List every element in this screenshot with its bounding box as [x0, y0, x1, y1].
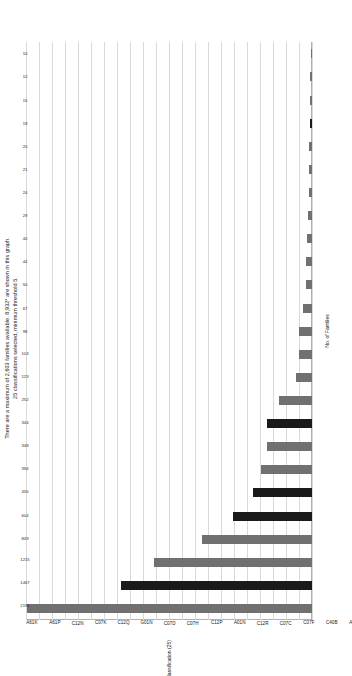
category-label-c07k: C07K: [95, 621, 107, 626]
category-label-c07d: C07D: [164, 621, 176, 626]
bar-a61p[interactable]: 1467: [121, 581, 312, 590]
category-label-g01n: G01N: [141, 621, 153, 626]
bar-value-label: 252: [22, 396, 29, 401]
bar-slot[interactable]: 604: [26, 504, 312, 527]
bar-slot[interactable]: 21: [26, 158, 312, 181]
bar-c07d[interactable]: 394: [261, 465, 312, 474]
bar-value-label: 67: [23, 305, 28, 310]
bar-value-label: 44: [23, 259, 28, 264]
bar-c07k[interactable]: 849: [202, 535, 312, 544]
bar-value-label: 29: [23, 213, 28, 218]
bar-c12q[interactable]: 604: [233, 512, 312, 521]
bar-value-label: 2191: [20, 603, 29, 608]
bar-c12n[interactable]: 1215: [154, 558, 312, 567]
bar-value-label: 849: [22, 535, 29, 540]
bar-slot[interactable]: 344: [26, 412, 312, 435]
bar-slot[interactable]: 12: [26, 65, 312, 88]
category-label-a61p: A61P: [49, 621, 60, 626]
bar-value-label: 19: [23, 120, 28, 125]
bar-slot[interactable]: 348: [26, 435, 312, 458]
bar-slot[interactable]: 29: [26, 204, 312, 227]
bar-value-label: 123: [22, 373, 29, 378]
chart-title-line-1: There are a maximum of 2,603 families av…: [4, 0, 12, 676]
plot-area: 2191146712158496044553943483442521231039…: [26, 42, 312, 620]
category-label-c07h: C07H: [187, 621, 199, 626]
category-label-a61k: A61K: [26, 621, 37, 626]
bar-a61k[interactable]: 2191: [27, 604, 312, 613]
category-label-c12n: C12N: [72, 621, 84, 626]
chart-canvas: There are a maximum of 2,603 families av…: [0, 0, 352, 676]
bar-value-label: 103: [22, 350, 29, 355]
category-axis-labels: A61KA61PC12NC07KC12QG01NC07DC07HC12PA01N…: [26, 620, 312, 676]
bar-c07f[interactable]: 98: [299, 327, 312, 336]
bar-value-label: 40: [23, 236, 28, 241]
bar-slot[interactable]: 15: [26, 88, 312, 111]
category-label-c12p: C12P: [211, 621, 223, 626]
category-label-a01n: A01N: [234, 621, 246, 626]
bar-value-label: 10: [23, 51, 28, 56]
bar-value-label: 394: [22, 466, 29, 471]
bar-slot[interactable]: 40: [26, 227, 312, 250]
bar-g01n[interactable]: 455: [253, 488, 312, 497]
bar-slot[interactable]: 455: [26, 481, 312, 504]
bar-slot[interactable]: 123: [26, 366, 312, 389]
bar-value-label: 24: [23, 190, 28, 195]
bar-value-label: 344: [22, 420, 29, 425]
bar-slot[interactable]: 394: [26, 458, 312, 481]
bar-c07h[interactable]: 348: [267, 442, 312, 451]
bar-slot[interactable]: 19: [26, 112, 312, 135]
bar-value-label: 20: [23, 143, 28, 148]
bar-slot[interactable]: 20: [26, 135, 312, 158]
bar-value-label: 50: [23, 282, 28, 287]
bar-value-label: 1467: [20, 580, 29, 585]
bar-slot[interactable]: 849: [26, 528, 312, 551]
category-label-c12r: C12R: [257, 621, 269, 626]
bar-c12r[interactable]: 123: [296, 373, 312, 382]
bar-slot[interactable]: 103: [26, 343, 312, 366]
bar-slot[interactable]: 252: [26, 389, 312, 412]
bar-slot[interactable]: 10: [26, 42, 312, 65]
bar-c40b[interactable]: 67: [303, 304, 312, 313]
bar-c07c[interactable]: 103: [299, 350, 312, 359]
bar-slot[interactable]: 2191: [26, 597, 312, 620]
bar-slot[interactable]: 50: [26, 273, 312, 296]
bar-value-label: 15: [23, 97, 28, 102]
bar-slot[interactable]: 67: [26, 296, 312, 319]
bar-slot[interactable]: 44: [26, 250, 312, 273]
bar-a01n[interactable]: 252: [279, 396, 312, 405]
bar-value-label: 21: [23, 167, 28, 172]
category-label-c07f: C07F: [303, 621, 314, 626]
bar-c12p[interactable]: 344: [267, 419, 312, 428]
category-label-c12q: C12Q: [118, 621, 130, 626]
bar-slot[interactable]: 98: [26, 320, 312, 343]
category-label-c07c: C07C: [280, 621, 292, 626]
value-axis-title: No. of Families: [324, 42, 330, 620]
bar-value-label: 455: [22, 489, 29, 494]
bar-slot[interactable]: 24: [26, 181, 312, 204]
bar-value-label: 12: [23, 74, 28, 79]
chart-title-line-2: 25 classifications selected, minimum thr…: [12, 0, 20, 676]
bar-value-label: 98: [23, 328, 28, 333]
bar-value-label: 1215: [20, 557, 29, 562]
bar-value-label: 604: [22, 512, 29, 517]
bar-slot[interactable]: 1467: [26, 574, 312, 597]
bar-slot[interactable]: 1215: [26, 551, 312, 574]
chart-title: There are a maximum of 2,603 families av…: [4, 0, 19, 676]
category-label-c40b: C40B: [326, 621, 338, 626]
bar-value-label: 348: [22, 443, 29, 448]
bar-series: 2191146712158496044553943483442521231039…: [26, 42, 312, 620]
